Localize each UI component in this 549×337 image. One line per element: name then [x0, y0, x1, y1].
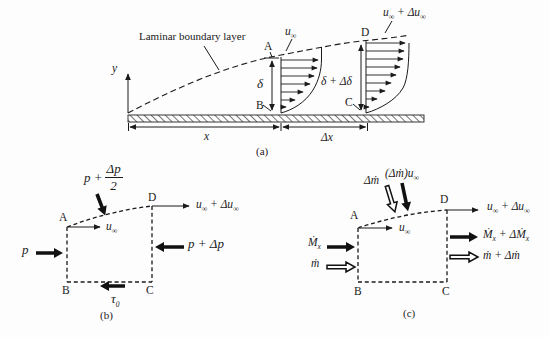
- shear-stress-label: τ0: [111, 292, 119, 305]
- caption-c: (c): [403, 308, 415, 319]
- corner-d-label-c: D: [440, 194, 448, 206]
- corner-a-label-c: A: [350, 210, 358, 222]
- delta-plus-label: δ + Δδ: [321, 76, 352, 88]
- momentum-out-label: Ṁx + ΔṀx: [483, 229, 529, 241]
- figure-boundary-layer: Laminar boundary layer y u∞ A D u∞ + Δu∞…: [0, 0, 549, 337]
- corner-b-label-c: B: [354, 286, 362, 298]
- corner-a-label-a: A: [264, 41, 272, 53]
- caption-a: (a): [256, 146, 268, 157]
- delta-label: δ: [257, 77, 263, 90]
- pressure-top-label: p + Δp2: [84, 162, 123, 192]
- boundary-layer-label: Laminar boundary layer: [139, 31, 245, 42]
- corner-d-label-b: D: [148, 192, 156, 204]
- momentum-top-label: (Δṁ)u∞: [385, 168, 419, 180]
- corner-c-label-c: C: [442, 286, 450, 298]
- figure-labels: Laminar boundary layer y u∞ A D u∞ + Δu∞…: [0, 0, 549, 337]
- mass-in-label: ṁ: [311, 258, 319, 270]
- pressure-right-label: p + Δp: [188, 237, 224, 250]
- u-inf-plus-label-a: u∞ + Δu∞: [383, 7, 425, 19]
- x-dim-label: x: [204, 131, 209, 143]
- u-inf-label-b: u∞: [106, 221, 117, 233]
- corner-b-label-a: B: [256, 100, 264, 112]
- pressure-left-label: p: [22, 243, 29, 256]
- u-inf-plus-label-b: u∞ + Δu∞: [196, 199, 238, 211]
- u-inf-plus-label-c: u∞ + Δu∞: [487, 201, 529, 213]
- u-inf-label-c: u∞: [399, 222, 410, 234]
- mass-out-label: ṁ + Δṁ: [483, 250, 520, 262]
- corner-d-label-a: D: [361, 27, 369, 39]
- corner-a-label-b: A: [59, 212, 67, 224]
- y-axis-label: y: [112, 63, 117, 75]
- momentum-in-label: Ṁx: [308, 237, 321, 249]
- corner-c-label-a: C: [345, 97, 353, 109]
- dx-dim-label: Δx: [321, 132, 333, 144]
- corner-c-label-b: C: [146, 285, 154, 297]
- caption-b: (b): [100, 310, 113, 321]
- u-inf-label-a: u∞: [285, 26, 296, 38]
- corner-b-label-b: B: [62, 285, 70, 297]
- mass-top-label: Δṁ: [364, 175, 379, 187]
